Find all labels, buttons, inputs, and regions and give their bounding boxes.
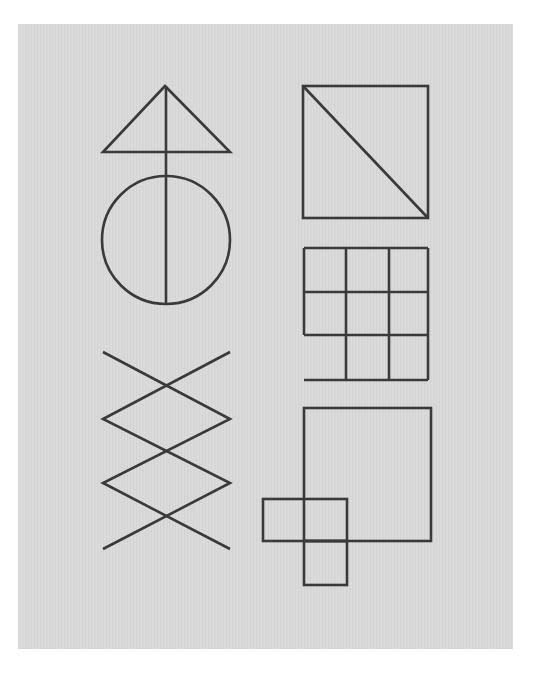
- lower-block-shape: [304, 541, 347, 585]
- grid-figure: [304, 248, 428, 380]
- diagonal-line: [303, 86, 428, 218]
- zigzag-figure: [103, 352, 230, 549]
- zigzag-line-b: [103, 352, 230, 549]
- triangle-circle-figure: [102, 86, 230, 305]
- square-blocks-figure: [263, 408, 431, 585]
- figures-svg: [0, 0, 534, 673]
- big-square-shape: [304, 408, 431, 541]
- diagram-canvas: [0, 0, 534, 673]
- square-diagonal-figure: [303, 86, 428, 218]
